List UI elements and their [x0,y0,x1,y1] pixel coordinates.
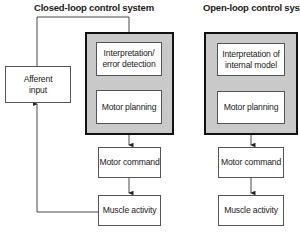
closed-motor-command-box: Motor command [98,147,161,178]
closed-motor-planning-label: Motor planning [102,102,157,113]
closed-muscle-activity-box: Muscle activity [98,195,161,226]
open-interpretation-box: Interpretation of internal model [217,43,285,76]
afferent-input-box: Afferent input [5,66,71,103]
open-motor-planning-label: Motor planning [224,102,279,113]
closed-interpretation-label: Interpretation/ error detection [98,48,160,70]
open-motor-command-label: Motor command [221,157,281,168]
closed-motor-command-label: Motor command [99,157,159,168]
closed-motor-planning-box: Motor planning [96,90,162,124]
afferent-input-label: Afferent input [18,74,58,96]
closed-muscle-activity-label: Muscle activity [103,205,157,216]
open-muscle-activity-box: Muscle activity [218,195,284,226]
open-motor-planning-box: Motor planning [217,91,285,124]
open-muscle-activity-label: Muscle activity [224,205,278,216]
open-interpretation-label: Interpretation of internal model [219,49,283,71]
open-motor-command-box: Motor command [218,147,284,178]
closed-interpretation-box: Interpretation/ error detection [96,42,162,76]
